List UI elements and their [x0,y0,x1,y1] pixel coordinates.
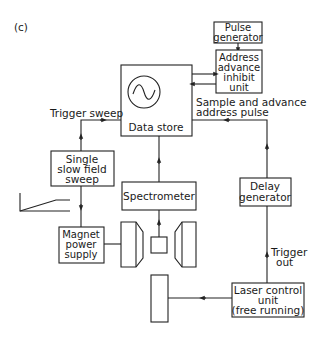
trigger-out-label-line2: out [276,256,293,268]
laser-head [151,275,168,322]
magnet-line3: supply [65,249,98,260]
delay-line2: generator [239,191,292,203]
sample-cell [151,237,167,253]
pulse-generator-line2: generator [213,32,263,43]
magnet-power-supply-block: Magnet power supply [59,227,104,263]
trigger-sweep-line [81,120,121,151]
magnet-pole-right [175,222,196,267]
spectrometer-block: Spectrometer [122,182,196,210]
address-advance-inhibit-block: Address advance inhibit unit [216,50,262,93]
magnet-pole-left [121,222,143,267]
data-store-label: Data store [129,121,184,133]
pulse-generator-block: Pulse generator [213,22,263,43]
sample-advance-line [192,120,267,178]
inhibit-line4: unit [229,82,248,93]
laser-line3: (free running) [232,304,305,316]
data-store-block: Data store [121,65,192,136]
delay-generator-block: Delay generator [239,178,292,206]
ramp-waveform-icon [20,193,70,211]
trigger-sweep-label: Trigger sweep [49,107,124,119]
single-slow-field-sweep-block: Single slow field sweep [51,151,114,186]
sweep-line3: sweep [65,173,99,185]
panel-label: (c) [14,21,28,33]
sample-advance-label-line2: address pulse [196,106,269,118]
block-diagram: (c) Pulse generator Address advance inhi… [0,0,317,340]
laser-control-unit-block: Laser control unit (free running) [232,283,305,317]
spectrometer-label: Spectrometer [123,190,195,202]
